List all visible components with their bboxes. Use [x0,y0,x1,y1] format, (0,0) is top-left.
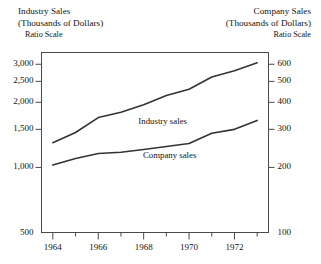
y-axis-tick-label-right: 600 [278,58,292,68]
x-axis-tick-label: 1970 [169,242,209,252]
y-axis-tick-label-left: 3,000 [13,58,33,68]
y-axis-tick-label-left: 1,000 [13,161,33,171]
series-label-company-sales: Company sales [143,150,197,160]
x-axis-tick-label: 1964 [33,242,73,252]
series-label-industry-sales: Industry sales [138,116,187,126]
y-axis-tick-label-left: 2,500 [13,75,33,85]
y-axis-tick-label-right: 200 [278,161,292,171]
y-axis-tick-label-right: 100 [278,227,292,237]
x-axis-tick-label: 1972 [214,242,254,252]
y-axis-tick-label-left: 500 [20,227,34,237]
y-axis-tick-label-left: 1,500 [13,123,33,133]
y-axis-tick-label-right: 300 [278,123,292,133]
y-axis-tick-label-right: 400 [278,96,292,106]
chart-figure: Industry Sales (Thousands of Dollars) Ra… [0,0,321,264]
x-axis-tick-label: 1968 [124,242,164,252]
y-axis-tick-label-right: 500 [278,75,292,85]
x-axis-tick-label: 1966 [78,242,118,252]
y-axis-tick-label-left: 2,000 [13,96,33,106]
plot-area [0,0,321,264]
